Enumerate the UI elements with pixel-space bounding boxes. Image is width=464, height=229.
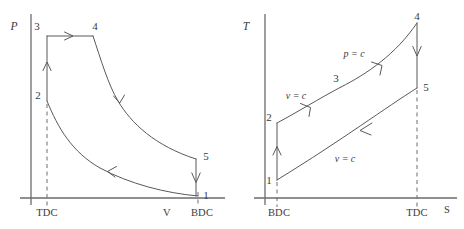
- pv-x-axis-label: V: [163, 207, 171, 218]
- thermodynamic-cycle-figure: 3 4 2 5 1 P TDC V BDC: [0, 0, 464, 229]
- ts-diagram-group: 1 2 3 4 5 p = c v = c v = c T BDC TDC S: [243, 10, 457, 218]
- pv-diagram-group: 3 4 2 5 1 P TDC V BDC: [9, 14, 225, 218]
- ts-state-label-2: 2: [266, 111, 272, 123]
- ts-state-label-5: 5: [423, 81, 429, 93]
- pv-state-label-2: 2: [35, 89, 41, 101]
- pv-tick-tdc: TDC: [36, 207, 58, 218]
- ts-state-label-4: 4: [414, 10, 420, 22]
- pv-tick-bdc: BDC: [191, 207, 213, 218]
- pv-state-label-5: 5: [203, 150, 209, 162]
- pv-state-label-3: 3: [34, 20, 40, 32]
- ts-tick-tdc: TDC: [406, 207, 428, 218]
- cycle-diagrams-svg: 3 4 2 5 1 P TDC V BDC: [0, 0, 464, 229]
- ts-process-label-v-const-upper: v = c: [286, 90, 307, 101]
- ts-x-axis-label: S: [444, 204, 450, 215]
- ts-process-5-1-curve: [277, 88, 417, 180]
- ts-y-axis-label: T: [243, 20, 251, 32]
- pv-process-4-5-curve: [93, 36, 196, 159]
- ts-process-3-4-arrowhead: [372, 62, 383, 75]
- pv-y-axis-label: P: [9, 20, 17, 32]
- ts-process-label-p-const: p = c: [342, 48, 365, 59]
- pv-state-label-1: 1: [203, 189, 209, 201]
- ts-tick-bdc: BDC: [268, 207, 290, 218]
- pv-state-label-4: 4: [92, 20, 98, 32]
- ts-process-label-v-const-lower: v = c: [335, 153, 356, 164]
- pv-process-1-2-curve: [47, 101, 198, 196]
- ts-state-label-1: 1: [266, 174, 272, 186]
- ts-state-label-3: 3: [333, 72, 339, 84]
